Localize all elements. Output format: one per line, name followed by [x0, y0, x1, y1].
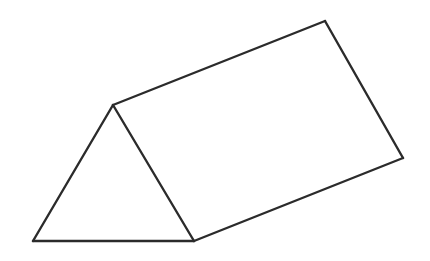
figure-canvas: [0, 0, 430, 261]
prism-drawing: [0, 0, 430, 261]
